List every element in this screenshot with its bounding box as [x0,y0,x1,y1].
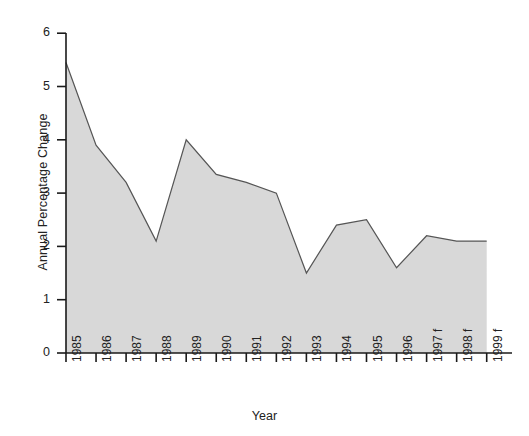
x-axis-tick-label: 1987 [131,302,143,362]
x-axis-tick-label: 1999 f [492,302,504,362]
area-series-fill [66,63,487,353]
x-axis-title: Year [0,409,529,423]
x-axis-tick-label: 1990 [221,302,233,362]
x-axis-tick-label: 1994 [341,302,353,362]
x-axis-tick-label: 1993 [311,302,323,362]
x-axis-tick-label: 1995 [372,302,384,362]
area-chart: Annual Percentage Change 0123456 1985198… [0,0,529,436]
x-axis-tick-label: 1985 [71,302,83,362]
x-axis-tick-label: 1992 [281,302,293,362]
plot-area [0,0,529,436]
x-axis-tick-label: 1997 f [432,302,444,362]
x-axis-tick-label: 1996 [402,302,414,362]
x-axis-tick-label: 1988 [161,302,173,362]
x-axis-tick-label: 1998 f [462,302,474,362]
x-axis-tick-label: 1991 [251,302,263,362]
x-axis-tick-label: 1989 [191,302,203,362]
y-axis-ticks [57,33,66,353]
x-axis-tick-label: 1986 [101,302,113,362]
